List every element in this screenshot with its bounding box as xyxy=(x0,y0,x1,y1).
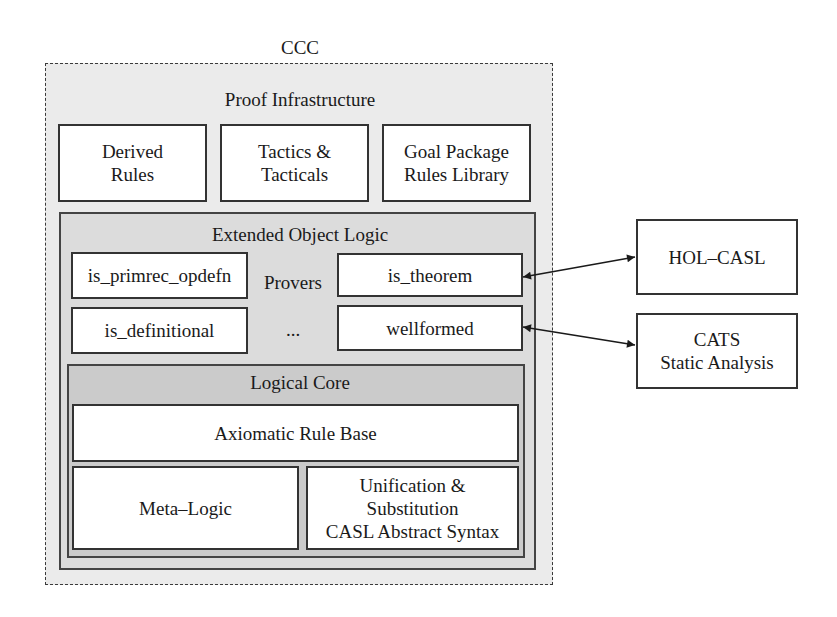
hol-casl-arrow xyxy=(523,257,635,277)
connector-arrows xyxy=(0,0,837,617)
cats-arrow xyxy=(523,327,635,345)
